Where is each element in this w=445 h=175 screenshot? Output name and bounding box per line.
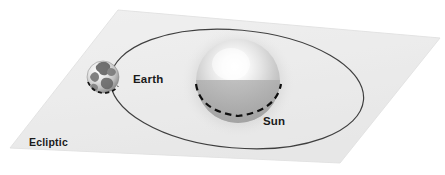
ecliptic-label: Ecliptic: [29, 136, 68, 148]
sun-label: Sun: [263, 115, 285, 127]
ecliptic-diagram: Earth Sun Ecliptic: [0, 0, 445, 175]
scene-canvas: [0, 0, 445, 175]
sun-highlight: [212, 48, 250, 80]
earth-label: Earth: [133, 73, 163, 85]
